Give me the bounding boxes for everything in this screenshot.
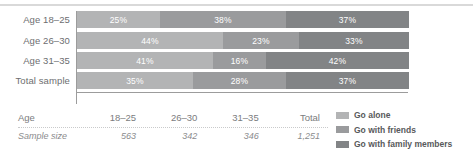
table-header-row: Age 18–25 26–30 31–35 Total [18, 112, 328, 131]
bar-segment-go-alone[interactable]: 35% [77, 72, 193, 89]
row-label: Total sample [0, 75, 76, 86]
bar-segment-go-with-friends[interactable]: 23% [223, 32, 299, 49]
table-cell-total: 1,251 [267, 131, 328, 141]
row-label: Age 26–30 [0, 35, 76, 46]
sample-size-table: Age 18–25 26–30 31–35 Total Sample size … [18, 112, 328, 150]
row-label: Age 31–35 [0, 55, 76, 66]
table-header-18-25: 18–25 [83, 112, 144, 123]
bar-group: 44% 23% 33% [76, 32, 409, 49]
chart-legend: Go alone Go with friends Go with family … [336, 110, 452, 154]
bar-segment-go-with-friends[interactable]: 28% [193, 72, 286, 89]
chart-row: Age 31–35 41% 16% 42% [0, 52, 410, 69]
bar-group: 41% 16% 42% [76, 52, 409, 69]
table-header-total: Total [267, 112, 328, 123]
legend-item-go-alone[interactable]: Go alone [336, 110, 452, 120]
bar-segment-go-with-family[interactable]: 42% [266, 52, 409, 69]
legend-swatch-icon [336, 112, 349, 119]
stacked-bar-chart: Age 18–25 25% 38% 37% Age 26–30 44% 23% … [0, 11, 473, 96]
table-header-age: Age [18, 112, 83, 123]
legend-label: Go alone [354, 110, 390, 120]
table-header-26-30: 26–30 [144, 112, 205, 123]
bar-group: 35% 28% 37% [76, 72, 409, 89]
legend-label: Go with family members [354, 139, 452, 149]
chart-row: Age 18–25 25% 38% 37% [0, 11, 410, 28]
legend-swatch-icon [336, 141, 349, 148]
bar-segment-go-with-friends[interactable]: 38% [160, 11, 286, 28]
table-row: Sample size 563 342 346 1,251 [18, 131, 328, 150]
legend-item-go-with-family[interactable]: Go with family members [336, 139, 452, 149]
bar-segment-go-alone[interactable]: 44% [77, 32, 223, 49]
table-row-label: Sample size [18, 131, 83, 141]
row-label: Age 18–25 [0, 14, 76, 25]
legend-label: Go with friends [354, 125, 416, 135]
table-divider [18, 127, 328, 128]
bar-segment-go-with-family[interactable]: 37% [286, 11, 409, 28]
bar-segment-go-with-family[interactable]: 33% [299, 32, 409, 49]
x-axis-line [76, 92, 408, 93]
top-divider [0, 4, 473, 6]
table-cell-18-25: 563 [83, 131, 144, 141]
legend-swatch-icon [336, 126, 349, 133]
bar-segment-go-with-friends[interactable]: 16% [213, 52, 266, 69]
bar-segment-go-alone[interactable]: 41% [77, 52, 213, 69]
chart-figure: Age 18–25 25% 38% 37% Age 26–30 44% 23% … [0, 0, 473, 162]
table-header-31-35: 31–35 [205, 112, 266, 123]
chart-row: Total sample 35% 28% 37% [0, 72, 410, 89]
chart-row: Age 26–30 44% 23% 33% [0, 32, 410, 49]
bar-segment-go-alone[interactable]: 25% [77, 11, 160, 28]
table-cell-31-35: 346 [205, 131, 266, 141]
legend-item-go-with-friends[interactable]: Go with friends [336, 125, 452, 135]
bar-segment-go-with-family[interactable]: 37% [286, 72, 409, 89]
table-cell-26-30: 342 [144, 131, 205, 141]
bar-group: 25% 38% 37% [76, 11, 409, 28]
